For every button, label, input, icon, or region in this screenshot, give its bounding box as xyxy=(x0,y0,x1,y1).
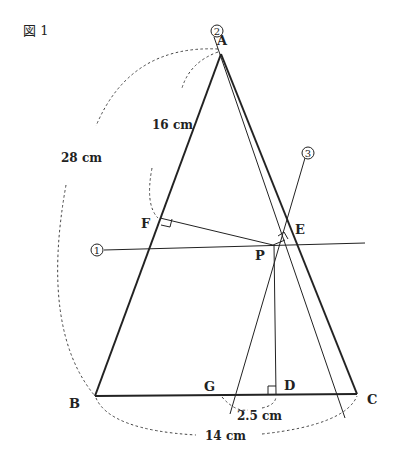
line-1-label: 1 xyxy=(91,244,103,256)
label-f: F xyxy=(141,216,151,231)
arc-28cm-lower xyxy=(58,185,95,396)
triangle-abc xyxy=(95,54,357,396)
segment-pd xyxy=(274,245,276,394)
label-d: D xyxy=(284,378,295,393)
measure-af: 16 cm xyxy=(152,118,193,132)
figure-title: 図 1 xyxy=(23,23,48,38)
label-c: C xyxy=(367,392,377,407)
measure-bc: 14 cm xyxy=(205,429,246,443)
line-2 xyxy=(214,37,345,418)
arc-16cm-upper xyxy=(182,52,218,88)
geometry-figure: 図 1 xyxy=(0,0,394,455)
right-angle-d xyxy=(268,386,276,394)
segment-pe xyxy=(273,240,285,245)
label-b: B xyxy=(69,396,80,411)
label-e: E xyxy=(295,222,305,237)
line-3-label: 3 xyxy=(302,147,314,159)
svg-text:3: 3 xyxy=(305,148,311,159)
line-1 xyxy=(104,243,365,250)
arc-2-5cm-right xyxy=(262,396,276,408)
segment-pf xyxy=(160,218,273,245)
side-ab xyxy=(95,54,221,396)
label-a: A xyxy=(216,33,228,48)
measure-gd: 2.5 cm xyxy=(237,409,282,423)
svg-text:1: 1 xyxy=(94,245,100,256)
label-g: G xyxy=(204,379,215,394)
measure-ab: 28 cm xyxy=(61,151,102,165)
side-ac xyxy=(221,54,357,394)
line-3 xyxy=(230,158,305,414)
side-bc xyxy=(95,394,357,396)
arc-16cm-lower xyxy=(150,168,158,218)
arc-14cm-left xyxy=(96,398,196,435)
label-p: P xyxy=(255,248,265,263)
point-labels: A B C D E F G P xyxy=(69,33,377,411)
